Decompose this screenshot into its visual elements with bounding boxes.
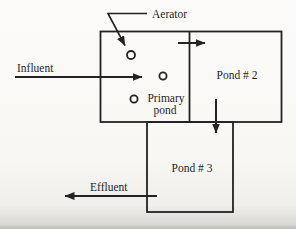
- aerator-circle-1: [127, 51, 135, 59]
- diagram-canvas: Aerator Influent Pond # 2 Primary pond P…: [0, 0, 296, 229]
- aerator-pointer-arrow: [108, 14, 147, 46]
- pond-system-diagram: Aerator Influent Pond # 2 Primary pond P…: [0, 0, 296, 229]
- effluent-label: Effluent: [90, 181, 128, 193]
- primary-pond-label-line2: pond: [154, 104, 177, 117]
- pond2-label: Pond # 2: [217, 69, 258, 81]
- pond3-label: Pond # 3: [172, 162, 213, 174]
- aerator-circle-3: [130, 95, 137, 102]
- aerator-label: Aerator: [152, 8, 187, 20]
- influent-label: Influent: [17, 62, 54, 74]
- aerator-circle-2: [159, 72, 166, 79]
